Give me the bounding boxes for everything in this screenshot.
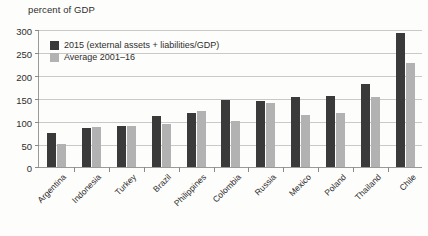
x-tick-label: Turkey	[113, 172, 138, 197]
bar	[47, 133, 56, 167]
legend-swatch-2015	[50, 41, 59, 50]
y-tick-label: 300	[16, 26, 32, 37]
bar	[266, 103, 275, 167]
bar	[57, 144, 66, 167]
bar-group	[283, 30, 318, 167]
x-tick-label: Chile	[397, 172, 418, 193]
bar	[92, 127, 101, 167]
x-tickmark	[283, 167, 284, 172]
bar-group	[318, 30, 353, 167]
bar	[162, 124, 171, 167]
chart-axis-title: percent of GDP	[28, 4, 95, 15]
bar-group	[248, 30, 283, 167]
y-tick-label: 100	[16, 118, 32, 129]
bar	[127, 126, 136, 167]
bar-group	[353, 30, 388, 167]
y-tick-label: 200	[16, 72, 32, 83]
y-tick-label: 50	[21, 141, 32, 152]
x-tickmark	[214, 167, 215, 172]
x-tickmark	[109, 167, 110, 172]
legend-item-series-0: 2015 (external assets + liabilities/GDP)	[50, 40, 219, 50]
x-tickmark	[74, 167, 75, 172]
bar-group	[388, 30, 423, 167]
x-tick-label: Philippines	[172, 172, 208, 208]
bar	[301, 115, 310, 167]
bar	[406, 63, 415, 167]
x-tick-label: Thailand	[353, 172, 383, 202]
bar	[187, 113, 196, 167]
chart-legend: 2015 (external assets + liabilities/GDP)…	[50, 40, 219, 62]
x-tickmark	[318, 167, 319, 172]
bar	[231, 121, 240, 167]
legend-label-average: Average 2001–16	[64, 52, 135, 62]
x-tickmark	[248, 167, 249, 172]
bar	[117, 126, 126, 167]
y-tickmark	[35, 167, 39, 168]
x-tickmark	[144, 167, 145, 172]
legend-swatch-average	[50, 53, 59, 62]
x-tickmark	[179, 167, 180, 172]
legend-item-series-1: Average 2001–16	[50, 52, 219, 62]
x-tick-label: Brazil	[151, 172, 173, 194]
bar	[221, 100, 230, 167]
x-tick-label: Colombia	[211, 172, 243, 204]
x-tick-label: Russia	[253, 172, 278, 197]
y-tick-label: 150	[16, 95, 32, 106]
bar	[326, 96, 335, 167]
bar	[152, 116, 161, 167]
bar	[396, 33, 405, 167]
bar	[197, 111, 206, 167]
bar-chart: percent of GDP 050100150200250300 Argent…	[0, 0, 428, 236]
y-tick-label: 250	[16, 49, 32, 60]
bar	[256, 101, 265, 167]
bar	[371, 97, 380, 167]
x-tickmark	[388, 167, 389, 172]
bar	[361, 84, 370, 167]
x-tick-label: Mexico	[287, 172, 313, 198]
y-tick-label: 0	[27, 163, 32, 174]
bar	[291, 97, 300, 167]
x-tick-label: Poland	[322, 172, 348, 198]
bar	[82, 128, 91, 167]
legend-label-2015: 2015 (external assets + liabilities/GDP)	[64, 40, 219, 50]
bar	[336, 113, 345, 167]
x-tick-label: Indonesia	[70, 172, 103, 205]
x-tick-label: Argentina	[36, 172, 69, 205]
x-tickmark	[353, 167, 354, 172]
